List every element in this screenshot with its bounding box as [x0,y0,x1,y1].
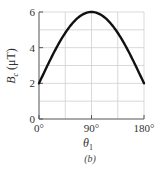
x-tick-label: 180° [134,122,155,134]
y-tick-label: 6 [30,6,36,18]
chart: 0246 0°90°180° Bc (μT) θ1 (b) [0,0,158,170]
y-axis-label: Bc (μT) [4,48,20,84]
x-tick-label: 0° [34,122,44,134]
y-tick-label: 4 [30,42,36,54]
grid [39,12,144,119]
x-tick-label: 90° [84,122,99,134]
x-tick-labels: 0°90°180° [34,122,154,134]
x-axis-label: θ1 [83,136,93,152]
y-tick-labels: 0246 [30,6,36,125]
y-tick-label: 2 [30,77,36,89]
figure-caption: (b) [84,153,96,165]
